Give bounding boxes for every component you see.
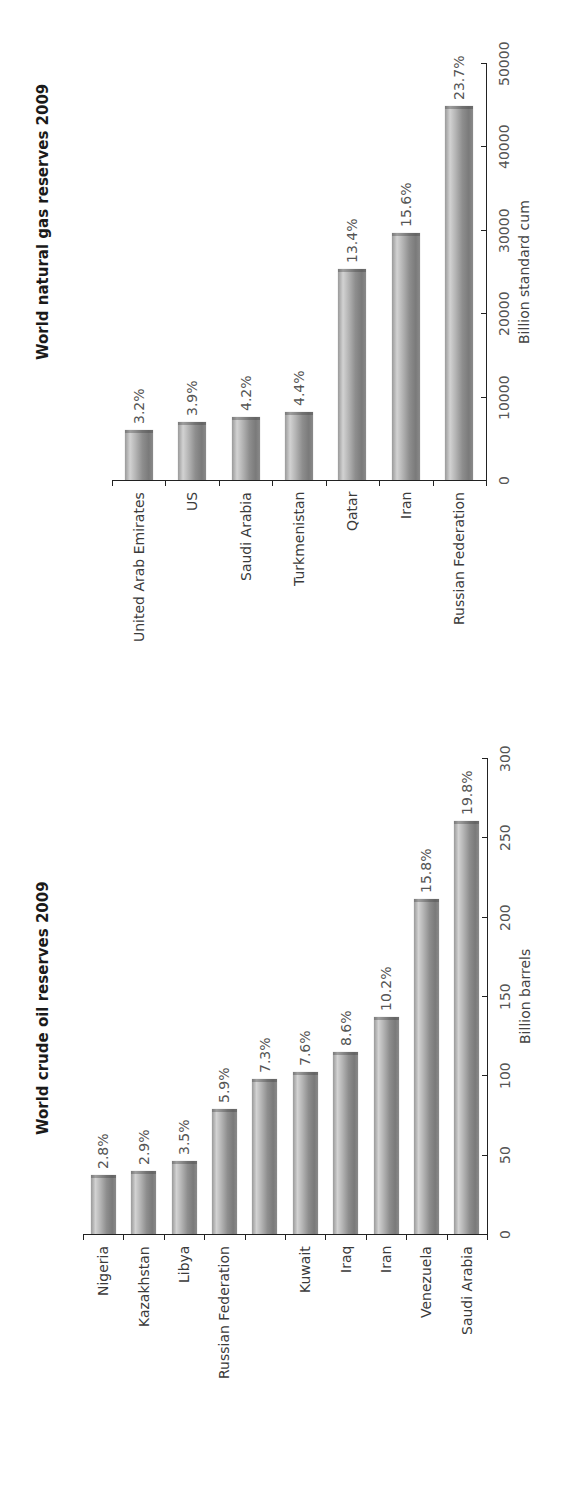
data-label: 19.8% [459,771,475,815]
category-axis-tick [83,1234,84,1240]
category-axis-tick [164,1234,165,1240]
category-label: Kazakhstan [136,1246,152,1327]
value-axis-tick-label: 50 [497,1146,513,1164]
value-axis-title: Billion barrels [517,948,533,1043]
category-axis-tick [285,1234,286,1240]
category-axis-tick [204,1234,205,1240]
value-axis-tick [482,996,487,997]
category-label: Libya [176,1246,192,1283]
bar [414,899,439,1234]
value-axis-tick [482,917,487,918]
category-label: Iran [378,1246,394,1273]
value-axis-tick-label: 250 [497,824,513,851]
value-axis-tick [482,1155,487,1156]
value-axis-tick-label: 100 [497,1062,513,1089]
value-axis-tick [482,1075,487,1076]
value-axis [487,758,488,1235]
value-axis-tick [482,1234,487,1235]
category-label: Russian Federation [216,1246,232,1379]
category-label: Nigeria [95,1246,111,1296]
bar [212,1109,237,1234]
bar [252,1079,277,1234]
value-axis-tick-label: 150 [497,983,513,1010]
category-axis-tick [447,1234,448,1240]
category-axis-tick [123,1234,124,1240]
bar [91,1175,116,1234]
data-label: 5.9% [216,1067,232,1103]
data-label: 7.3% [257,1037,273,1073]
bar [172,1161,197,1234]
bar [374,1017,399,1234]
value-axis-tick-label: 200 [497,904,513,931]
data-label: 2.8% [95,1133,111,1169]
oil-reserves-chart: World crude oil reserves 2009 Billion ba… [0,0,572,1489]
chart-title: World crude oil reserves 2009 [34,881,52,1135]
category-label: Venezuela [418,1246,434,1318]
bar [293,1072,318,1234]
bar [333,1052,358,1234]
figure-page: World natural gas reserves 2009 Billion … [0,0,572,1489]
category-axis-tick [406,1234,407,1240]
data-label: 8.6% [338,1010,354,1046]
category-axis-tick [366,1234,367,1240]
bar [454,821,479,1234]
data-label: 3.5% [176,1119,192,1155]
category-label: Saudi Arabia [459,1246,475,1335]
category-label: Iraq [338,1246,354,1273]
data-label: 15.8% [418,849,434,893]
category-axis-tick [245,1234,246,1240]
value-axis-tick-label: 0 [497,1230,513,1239]
category-label: Kuwait [297,1246,313,1293]
category-axis-tick [325,1234,326,1240]
data-label: 7.6% [297,1030,313,1066]
value-axis-tick-label: 300 [497,745,513,772]
value-axis-tick [482,758,487,759]
bar [131,1171,156,1234]
data-label: 2.9% [136,1129,152,1165]
value-axis-tick [482,837,487,838]
data-label: 10.2% [378,967,394,1011]
